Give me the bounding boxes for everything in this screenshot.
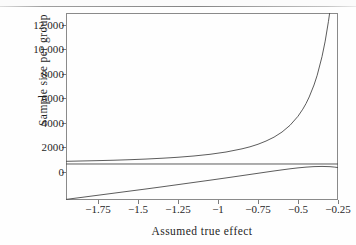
x-tick-label--0.25: −0.25 — [314, 204, 356, 215]
y-axis-title-holder: Sample size per group — [14, 24, 30, 184]
x-axis-title: Assumed true effect — [66, 225, 338, 237]
y-tick-label-0: 0 — [58, 167, 64, 178]
chart-figure: 0 2000 4000 6000 8000 10,000 12,000 −1.7… — [0, 0, 356, 245]
curve-lower-bound-curve — [66, 166, 338, 199]
y-axis-title: Sample size per group — [37, 0, 49, 165]
curve-required-sample-size — [66, 13, 332, 161]
figure-page: 0 2000 4000 6000 8000 10,000 12,000 −1.7… — [0, 0, 356, 245]
chart-curves — [66, 13, 338, 200]
